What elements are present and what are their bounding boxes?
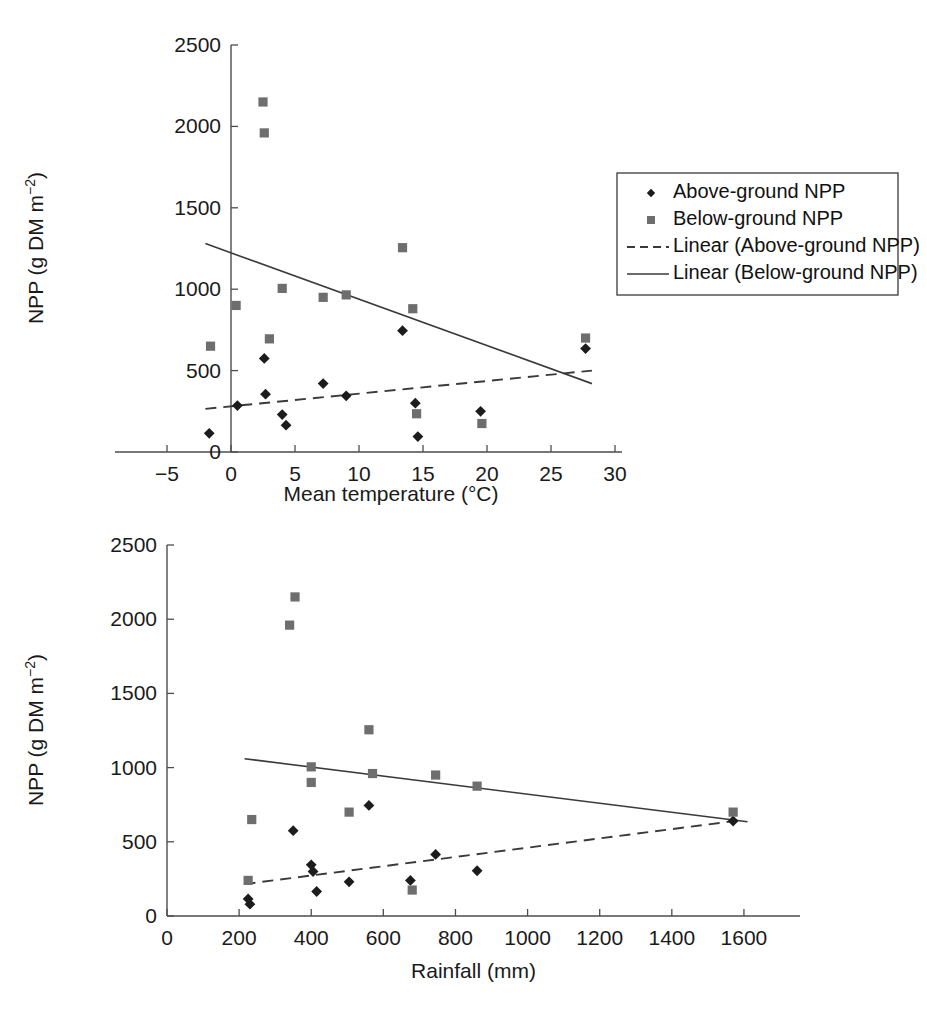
legend-label: Below-ground NPP: [673, 207, 843, 229]
legend-label: Above-ground NPP: [673, 180, 845, 202]
data-point-above-ground: [410, 398, 421, 409]
data-point-below-ground: [247, 815, 256, 824]
trendlines: [205, 244, 592, 409]
y-tick-label: 0: [209, 440, 221, 463]
data-point-below-ground: [258, 97, 267, 106]
data-point-above-ground: [364, 800, 375, 811]
trendline-below-ground: [245, 759, 748, 822]
y-axis-title: NPP (g DM m−2): [22, 172, 47, 324]
npp-figure: 05001000150020002500−5051015202530Mean t…: [0, 0, 927, 1022]
y-tick-label: 2000: [110, 607, 157, 630]
x-tick-label: 600: [366, 926, 401, 949]
data-point-above-ground: [259, 353, 270, 364]
data-point-below-ground: [307, 762, 316, 771]
y-tick-label: 1000: [110, 756, 157, 779]
data-point-above-ground: [430, 849, 441, 860]
legend-label: Linear (Above-ground NPP): [673, 234, 920, 256]
y-tick-label: 0: [145, 904, 157, 927]
data-point-below-ground: [344, 808, 353, 817]
data-point-below-ground: [364, 725, 373, 734]
data-point-below-ground: [278, 284, 287, 293]
legend-item[interactable]: Below-ground NPP: [647, 207, 843, 229]
data-point-below-ground: [319, 293, 328, 302]
x-tick-label: 1400: [648, 926, 695, 949]
x-axis-ticks: −5051015202530: [155, 445, 627, 485]
data-point-below-ground: [307, 778, 316, 787]
data-point-below-ground: [290, 592, 299, 601]
data-point-above-ground: [311, 886, 322, 897]
data-point-above-ground: [580, 343, 591, 354]
data-point-below-ground: [265, 334, 274, 343]
data-point-below-ground: [260, 128, 269, 137]
y-axis-title: NPP (g DM m−2): [22, 654, 47, 806]
x-tick-label: 200: [222, 926, 257, 949]
data-point-below-ground: [285, 621, 294, 630]
trendline-above-ground: [245, 820, 741, 884]
y-tick-label: 2500: [110, 533, 157, 556]
x-tick-label: −5: [155, 462, 179, 485]
data-point-below-ground: [232, 301, 241, 310]
data-point-below-ground: [729, 808, 738, 817]
legend-item[interactable]: Above-ground NPP: [647, 180, 846, 202]
data-point-above-ground: [344, 876, 355, 887]
data-point-above-ground: [260, 389, 271, 400]
x-axis-title: Rainfall (mm): [411, 959, 536, 982]
data-point-above-ground: [472, 865, 483, 876]
data-point-below-ground: [431, 770, 440, 779]
data-point-above-ground: [232, 400, 243, 411]
data-point-below-ground: [408, 304, 417, 313]
chart-panel-temperature: 05001000150020002500−5051015202530Mean t…: [0, 0, 927, 512]
data-point-below-ground: [398, 243, 407, 252]
series-below-ground: [206, 97, 590, 428]
scatter-plot-rainfall: 0500100015002000250002004006008001000120…: [0, 512, 927, 1022]
data-point-above-ground: [288, 825, 299, 836]
data-point-below-ground: [368, 769, 377, 778]
legend-label: Linear (Below-ground NPP): [673, 261, 918, 283]
y-tick-label: 2500: [174, 33, 221, 56]
data-point-above-ground: [412, 431, 423, 442]
data-point-above-ground: [318, 378, 329, 389]
data-point-above-ground: [277, 409, 288, 420]
data-point-below-ground: [408, 885, 417, 894]
data-point-above-ground: [475, 406, 486, 417]
data-point-below-ground: [244, 876, 253, 885]
y-axis-ticks: 05001000150020002500: [174, 33, 238, 463]
chart-panel-rainfall: 0500100015002000250002004006008001000120…: [0, 512, 927, 1022]
trendline-above-ground: [205, 371, 592, 409]
data-point-below-ground: [473, 782, 482, 791]
x-tick-label: 400: [294, 926, 329, 949]
axes: [167, 545, 800, 916]
y-tick-label: 1500: [174, 196, 221, 219]
data-point-above-ground: [728, 816, 739, 827]
scatter-plot-temperature: 05001000150020002500−5051015202530Mean t…: [0, 0, 927, 512]
x-tick-label: 1200: [576, 926, 623, 949]
x-tick-label: 0: [225, 462, 237, 485]
data-point-below-ground: [581, 333, 590, 342]
data-point-above-ground: [281, 420, 292, 431]
x-tick-label: 0: [161, 926, 173, 949]
svg-text:NPP (g DM m−2): NPP (g DM m−2): [22, 654, 47, 806]
x-tick-label: 800: [438, 926, 473, 949]
data-point-below-ground: [342, 290, 351, 299]
x-tick-label: 1600: [721, 926, 768, 949]
data-point-below-ground: [477, 419, 486, 428]
x-tick-label: 1000: [504, 926, 551, 949]
data-point-above-ground: [204, 428, 215, 439]
y-tick-label: 500: [122, 830, 157, 853]
y-tick-label: 2000: [174, 114, 221, 137]
series-below-ground: [244, 592, 738, 894]
square-marker: [647, 216, 655, 224]
axes: [115, 45, 622, 452]
series-above-ground: [243, 800, 739, 909]
y-tick-label: 1500: [110, 681, 157, 704]
x-tick-label: 25: [539, 462, 562, 485]
y-axis-ticks: 05001000150020002500: [110, 533, 174, 927]
trendlines: [245, 759, 748, 884]
x-axis-ticks: 02004006008001000120014001600: [161, 909, 767, 949]
legend: Above-ground NPPBelow-ground NPPLinear (…: [617, 173, 920, 295]
x-axis-title: Mean temperature (°C): [284, 482, 499, 505]
x-tick-label: 30: [603, 462, 626, 485]
data-point-below-ground: [412, 409, 421, 418]
y-tick-label: 500: [186, 359, 221, 382]
data-point-above-ground: [405, 875, 416, 886]
